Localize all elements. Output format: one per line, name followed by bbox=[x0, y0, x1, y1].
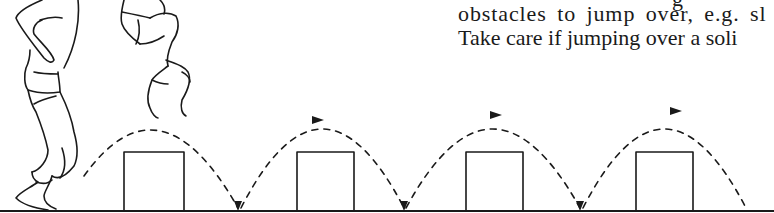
standing-figure bbox=[16, 0, 78, 210]
arrowhead-icon bbox=[576, 201, 584, 211]
arrowhead-icon bbox=[670, 107, 682, 115]
jump-arc-4 bbox=[583, 129, 746, 208]
obstacle-box bbox=[636, 152, 693, 211]
jump-arc-3 bbox=[406, 129, 580, 208]
jump-arc-1 bbox=[84, 130, 238, 208]
obstacle-box bbox=[297, 152, 354, 211]
arrowheads bbox=[234, 107, 682, 211]
jumping-illustration bbox=[0, 0, 774, 213]
arrowhead-icon bbox=[312, 116, 324, 124]
jumping-figure bbox=[121, 0, 190, 118]
jump-arc-2 bbox=[241, 129, 404, 208]
obstacle-box bbox=[124, 152, 184, 211]
arrowhead-icon bbox=[234, 201, 242, 211]
obstacle-box bbox=[466, 152, 523, 211]
arrowhead-icon bbox=[490, 111, 502, 119]
